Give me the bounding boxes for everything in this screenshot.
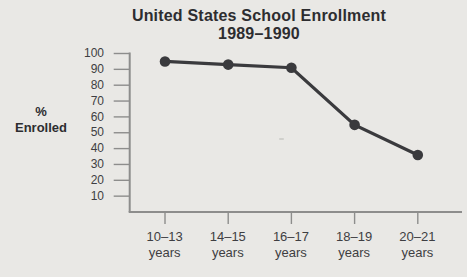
data-point-3 [349, 120, 360, 131]
data-line [165, 61, 418, 155]
data-point-1 [223, 59, 234, 70]
x-tick-label: 14–15 years [196, 229, 259, 261]
data-point-0 [160, 56, 171, 67]
x-axis-tick-labels: 10–13 years 14–15 years 16–17 years 18–1… [133, 229, 449, 261]
enrollment-chart-figure: United States School Enrollment 1989–199… [0, 0, 467, 277]
data-point-2 [286, 62, 297, 73]
x-tick-label: 18–19 years [323, 229, 386, 261]
x-tick-label: 20–21 years [386, 229, 449, 261]
x-tick-label: 10–13 years [133, 229, 196, 261]
scan-smudge-artifact [279, 138, 284, 140]
x-tick-label: 16–17 years [259, 229, 322, 261]
data-point-4 [413, 150, 424, 161]
